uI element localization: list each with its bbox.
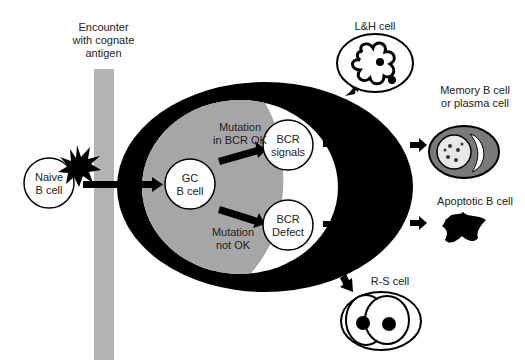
antigen-encounter-bar xyxy=(94,69,114,360)
mutation-not-ok-label: Mutation not OK xyxy=(198,226,268,252)
lh-cell-illustration xyxy=(337,34,413,92)
naive-b-cell-label: Naive B cell xyxy=(24,171,74,197)
rs-cell-label: R-S cell xyxy=(365,275,415,288)
arrow-to-apoptotic-cell xyxy=(410,216,427,230)
encounter-label-line3: antigen xyxy=(66,47,141,60)
mutation-not-ok-line1: Mutation xyxy=(198,226,268,239)
gc-label-line2: B cell xyxy=(165,185,215,198)
lh-cell-label: L&H cell xyxy=(345,20,405,33)
memory-label-line1: Memory B cell xyxy=(425,84,525,97)
memory-label-line2: or plasma cell xyxy=(425,97,525,110)
memory-cell-label: Memory B cell or plasma cell xyxy=(425,84,525,110)
naive-label-line2: B cell xyxy=(24,184,74,197)
bcr-signals-line1: BCR xyxy=(263,133,313,146)
bcr-signals-line2: signals xyxy=(263,146,313,159)
encounter-label-line2: with cognate xyxy=(66,34,141,47)
gc-label-line1: GC xyxy=(165,172,215,185)
bcr-defect-label: BCR Defect xyxy=(263,213,313,239)
naive-label-line1: Naive xyxy=(24,171,74,184)
apoptotic-cell-illustration xyxy=(442,212,486,243)
gc-b-cell-label: GC B cell xyxy=(165,172,215,198)
mutation-not-ok-line2: not OK xyxy=(198,239,268,252)
bcr-signals-label: BCR signals xyxy=(263,133,313,159)
encounter-label: Encounter with cognate antigen xyxy=(66,21,141,60)
bcr-defect-line1: BCR xyxy=(263,213,313,226)
encounter-label-line1: Encounter xyxy=(66,21,141,34)
rs-cell-illustration xyxy=(341,292,421,350)
bcr-defect-line2: Defect xyxy=(263,226,313,239)
apoptotic-cell-label: Apoptotic B cell xyxy=(425,195,525,208)
memory-plasma-cell-illustration xyxy=(429,126,499,178)
arrow-to-rs-cell xyxy=(340,274,353,292)
arrow-to-memory-cell xyxy=(410,138,427,152)
